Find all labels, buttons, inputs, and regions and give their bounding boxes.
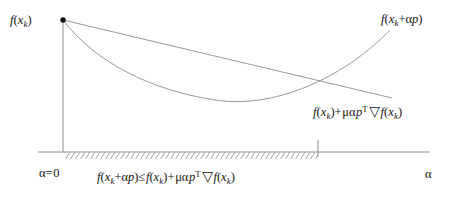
label-f-xk-close: ) (27, 13, 31, 27)
label-alpha-zero-value: 0 (53, 166, 59, 180)
label-armijo-close2: ) (398, 105, 402, 119)
label-armijo-line: f(xk)+μαpT▽f(xk) (313, 105, 402, 121)
label-armijo-mu: μ (342, 105, 349, 119)
cond-mu: μ (175, 170, 182, 184)
nabla-icon-condition: ▽ (202, 169, 213, 184)
label-f-xk-alpha-p-close: ) (418, 12, 422, 26)
label-armijo-x2: x (388, 105, 394, 119)
cond-close3: ) (231, 170, 235, 184)
objective-function-curve (63, 20, 390, 102)
nabla-icon: ▽ (369, 104, 380, 119)
cond-leq: ≤ (138, 170, 145, 184)
label-armijo-transpose: T (362, 104, 367, 114)
label-alpha-equals-zero: α=0 (39, 167, 59, 180)
cond-alpha2: α (182, 170, 189, 184)
hatched-acceptable-interval (65, 152, 318, 159)
label-armijo-condition-inequality: f(xk+αp)≤f(xk)+μαpT▽f(xk) (97, 170, 235, 186)
label-f-xk: f(xk) (10, 14, 32, 29)
label-f-xk-alpha-p: f(xk+αp) (381, 13, 422, 28)
cond-plus2: + (168, 170, 176, 184)
armijo-line (63, 20, 392, 98)
plot-canvas (0, 0, 470, 199)
cond-x3: x (221, 170, 227, 184)
x-axis-label-alpha-glyph: α (425, 167, 432, 181)
cond-transpose: T (195, 169, 200, 179)
armijo-condition-figure: f(xk) f(xk+αp) f(xk)+μαpT▽f(xk) α=0 f(xk… (0, 0, 470, 199)
origin-point-marker (60, 17, 65, 22)
x-axis-label-alpha: α (425, 168, 432, 181)
